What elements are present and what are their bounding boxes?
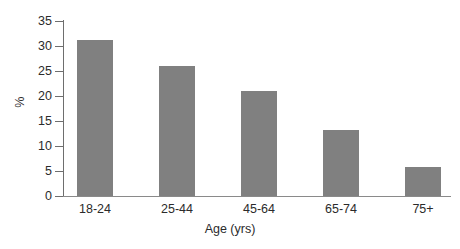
- y-axis-tick: [55, 121, 63, 122]
- y-axis-tick-label: 5: [22, 165, 52, 178]
- y-axis-tick: [55, 96, 63, 97]
- y-axis-tick-label: 35: [22, 15, 52, 28]
- bar: [159, 66, 195, 196]
- bar: [405, 167, 441, 197]
- y-axis-tick-label: 15: [22, 115, 52, 128]
- y-axis-tick: [55, 21, 63, 22]
- x-axis-tick-label: 18-24: [55, 203, 135, 216]
- x-axis-tick-label: 45-64: [219, 203, 299, 216]
- bar: [77, 40, 113, 197]
- bar: [323, 130, 359, 197]
- y-axis-tick: [55, 46, 63, 47]
- y-axis-tick: [55, 71, 63, 72]
- y-axis-tick-label: 20: [22, 90, 52, 103]
- x-axis-tick-label: 25-44: [137, 203, 217, 216]
- y-axis-tick: [55, 196, 63, 197]
- bar-chart: % 05101520253035 18-2425-4445-6465-7475+…: [0, 0, 460, 249]
- x-axis-tick-label: 65-74: [301, 203, 381, 216]
- y-axis-tick-label: 25: [22, 65, 52, 78]
- plot-area: [63, 21, 451, 196]
- y-axis-tick-label: 0: [22, 190, 52, 203]
- y-axis-tick: [55, 171, 63, 172]
- bar: [241, 91, 277, 196]
- x-axis-title: Age (yrs): [0, 223, 460, 236]
- y-axis-tick-label: 30: [22, 40, 52, 53]
- y-axis-tick-label: 10: [22, 140, 52, 153]
- y-axis-tick: [55, 146, 63, 147]
- x-axis-tick-label: 75+: [383, 203, 460, 216]
- x-axis-line: [63, 196, 451, 197]
